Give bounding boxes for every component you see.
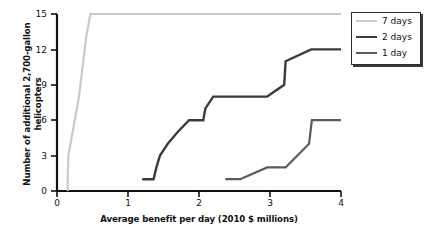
legend-item-1-day[interactable]: 1 day <box>352 45 420 61</box>
series-line-2-days <box>142 49 341 179</box>
x-axis-title: Average benefit per day (2010 $ millions… <box>57 214 341 224</box>
x-tick-label-4: 4 <box>331 198 351 208</box>
chart-legend: 7 days 2 days 1 day <box>351 12 421 65</box>
x-tick-label-0: 0 <box>47 198 67 208</box>
chart-figure: 15 12 9 6 3 0 0 1 2 3 4 Average benefit … <box>0 0 428 233</box>
x-tick-label-1: 1 <box>118 198 138 208</box>
legend-item-2-days[interactable]: 2 days <box>352 29 420 45</box>
legend-item-7-days[interactable]: 7 days <box>352 13 420 29</box>
series-line-7-days <box>68 14 341 191</box>
chart-series-group <box>68 14 341 191</box>
legend-label-2-days: 2 days <box>382 32 412 42</box>
legend-label-7-days: 7 days <box>382 16 412 26</box>
y-axis-title: Number of additional 2,700-gallon helico… <box>22 14 44 194</box>
legend-swatch-7-days <box>356 20 377 22</box>
x-tick-label-3: 3 <box>260 198 280 208</box>
legend-swatch-2-days <box>356 36 377 38</box>
series-line-1-day <box>225 120 341 179</box>
x-tick-label-2: 2 <box>189 198 209 208</box>
legend-label-1-day: 1 day <box>382 48 407 58</box>
plot-axes <box>56 14 341 191</box>
legend-swatch-1-day <box>356 52 377 54</box>
